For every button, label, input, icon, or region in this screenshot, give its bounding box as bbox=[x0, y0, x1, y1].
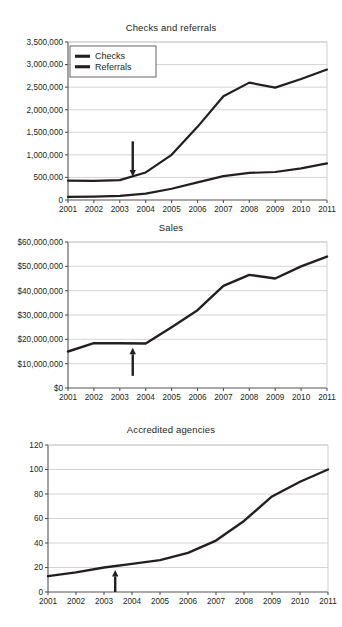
chart-panel-checks-and-referrals: Checks and referrals 0500,0001,000,0001,… bbox=[0, 0, 342, 218]
svg-sales: $0$10,000,000$20,000,000$30,000,000$40,0… bbox=[0, 208, 342, 410]
x-axis-tick-label: 2002 bbox=[67, 597, 86, 606]
chart-panel-accredited-agencies: Accredited agencies 02040608010012020012… bbox=[0, 412, 342, 627]
y-axis-tick-label: $0 bbox=[54, 384, 64, 393]
annotation-arrow-head-up bbox=[112, 570, 118, 577]
y-axis-tick-label: 20 bbox=[34, 563, 44, 572]
x-axis-tick-label: 2011 bbox=[319, 597, 337, 606]
y-axis-tick-label: 40 bbox=[34, 539, 44, 548]
chart-panel-sales: Sales $0$10,000,000$20,000,000$30,000,00… bbox=[0, 208, 342, 410]
x-axis-tick-label: 2009 bbox=[266, 393, 285, 402]
legend-label-checks: Checks bbox=[95, 51, 126, 61]
three-panel-line-chart-figure: Checks and referrals 0500,0001,000,0001,… bbox=[0, 0, 342, 627]
y-axis-tick-label: 120 bbox=[29, 441, 43, 450]
x-axis-tick-label: 2007 bbox=[207, 597, 226, 606]
y-axis-tick-label: 3,500,000 bbox=[27, 38, 64, 47]
x-axis-tick-label: 2007 bbox=[214, 393, 233, 402]
x-axis-tick-label: 2005 bbox=[162, 393, 181, 402]
y-axis-tick-label: 0 bbox=[38, 588, 43, 597]
y-axis-tick-label: 2,000,000 bbox=[27, 106, 64, 115]
y-axis-tick-label: $40,000,000 bbox=[17, 287, 63, 296]
data-line-accredited-agencies bbox=[48, 470, 328, 577]
y-axis-tick-label: 3,000,000 bbox=[27, 60, 64, 69]
x-axis-tick-label: 2009 bbox=[263, 597, 282, 606]
y-axis-tick-label: $10,000,000 bbox=[17, 360, 63, 369]
plot-area-sales: $0$10,000,000$20,000,000$30,000,000$40,0… bbox=[0, 208, 342, 410]
y-axis-tick-label: 2,500,000 bbox=[27, 83, 64, 92]
y-axis-tick-label: 100 bbox=[29, 465, 43, 474]
y-axis-tick-label: 1,500,000 bbox=[27, 128, 64, 137]
plot-area-accredited-agencies: 0204060801001202001200220032004200520062… bbox=[0, 412, 342, 627]
x-axis-tick-label: 2003 bbox=[95, 597, 114, 606]
chart-legend: ChecksReferrals bbox=[70, 46, 156, 77]
y-axis-tick-label: $50,000,000 bbox=[17, 262, 63, 271]
x-axis-tick-label: 2001 bbox=[59, 393, 78, 402]
x-axis-tick-label: 2010 bbox=[291, 597, 310, 606]
y-axis-tick-label: 0 bbox=[58, 196, 63, 205]
x-axis-tick-label: 2006 bbox=[188, 393, 207, 402]
legend-label-referrals: Referrals bbox=[95, 62, 132, 72]
y-axis-tick-label: $30,000,000 bbox=[17, 311, 63, 320]
x-axis-tick-label: 2008 bbox=[235, 597, 254, 606]
svg-checks-and-referrals: 0500,0001,000,0001,500,0002,000,0002,500… bbox=[0, 0, 342, 218]
x-axis-tick-label: 2003 bbox=[111, 393, 130, 402]
x-axis-tick-label: 2002 bbox=[85, 393, 104, 402]
plot-area-checks-and-referrals: 0500,0001,000,0001,500,0002,000,0002,500… bbox=[0, 0, 342, 218]
x-axis-tick-label: 2005 bbox=[151, 597, 170, 606]
y-axis-tick-label: 500,000 bbox=[33, 173, 63, 182]
x-axis-tick-label: 2006 bbox=[179, 597, 198, 606]
y-axis-tick-label: 1,000,000 bbox=[27, 151, 64, 160]
svg-accredited-agencies: 0204060801001202001200220032004200520062… bbox=[0, 412, 342, 627]
x-axis-tick-label: 2011 bbox=[318, 393, 336, 402]
data-line-checks bbox=[68, 70, 327, 181]
y-axis-tick-label: 60 bbox=[34, 514, 44, 523]
annotation-arrow-head-up bbox=[130, 348, 136, 355]
y-axis-tick-label: $20,000,000 bbox=[17, 335, 63, 344]
data-line-sales bbox=[68, 257, 327, 352]
x-axis-tick-label: 2010 bbox=[292, 393, 311, 402]
x-axis-tick-label: 2004 bbox=[137, 393, 156, 402]
y-axis-tick-label: $60,000,000 bbox=[17, 238, 63, 247]
x-axis-tick-label: 2001 bbox=[39, 597, 58, 606]
y-axis-tick-label: 80 bbox=[34, 490, 44, 499]
x-axis-tick-label: 2004 bbox=[123, 597, 142, 606]
x-axis-tick-label: 2008 bbox=[240, 393, 259, 402]
